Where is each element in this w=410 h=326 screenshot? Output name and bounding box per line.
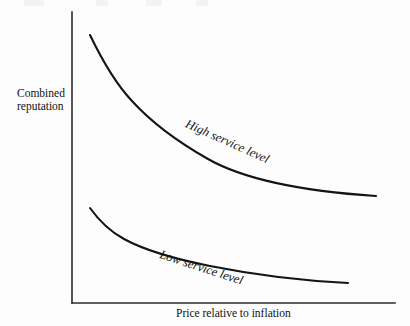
- chart-figure: Combined reputation Price relative to in…: [0, 0, 410, 326]
- curve-high-service-level: [90, 35, 376, 196]
- y-axis-label: Combined reputation: [17, 87, 73, 112]
- y-axis-label-line2: reputation: [17, 100, 73, 113]
- x-axis-label: Price relative to inflation: [176, 306, 291, 320]
- chart-plot-area: [0, 0, 410, 326]
- y-axis-label-line1: Combined: [17, 87, 73, 100]
